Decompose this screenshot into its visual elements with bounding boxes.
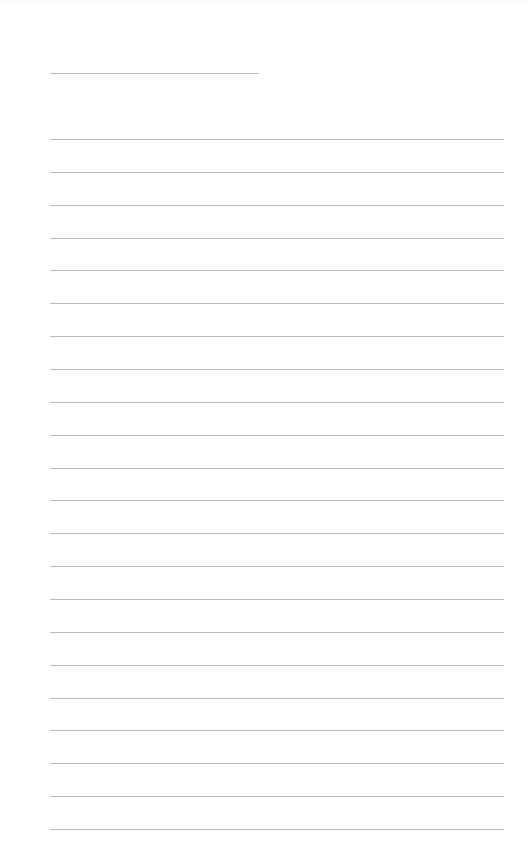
ruled-line — [50, 730, 504, 731]
ruled-line — [50, 435, 504, 436]
ruled-line — [50, 205, 504, 206]
ruled-line — [50, 698, 504, 699]
ruled-line — [50, 270, 504, 271]
ruled-line — [50, 632, 504, 633]
ruled-line — [50, 500, 504, 501]
lined-page — [0, 0, 528, 863]
ruled-line — [50, 468, 504, 469]
ruled-line — [50, 763, 504, 764]
ruled-line — [50, 139, 504, 140]
ruled-line — [50, 336, 504, 337]
ruled-line — [50, 533, 504, 534]
ruled-line — [50, 172, 504, 173]
ruled-line — [50, 599, 504, 600]
ruled-line — [50, 303, 504, 304]
page-bleed-through — [0, 0, 528, 6]
ruled-line — [50, 829, 504, 830]
ruled-line — [50, 402, 504, 403]
ruled-line — [50, 796, 504, 797]
ruled-line — [50, 665, 504, 666]
title-line — [50, 73, 259, 74]
ruled-line — [50, 566, 504, 567]
ruled-line — [50, 238, 504, 239]
ruled-line — [50, 369, 504, 370]
